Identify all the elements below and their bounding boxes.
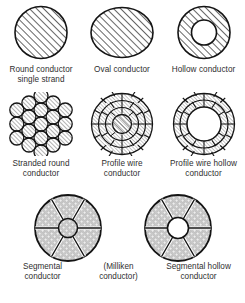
stranded-round-conductor-icon — [8, 92, 74, 156]
diagram-hollow-conductor: Hollow conductor — [162, 4, 245, 75]
row-segmental-conductors — [0, 193, 245, 263]
caption-profile-wire-hollow-conductor: Profile wire hollow conductor — [170, 159, 237, 179]
caption-stranded-round-conductor: Stranded round conductor — [12, 159, 69, 179]
caption-segmental-conductor: Segmental conductor — [2, 262, 84, 282]
row-segmental-captions: Segmental conductor (Milliken conductor)… — [0, 262, 245, 282]
conductor-types-figure: Round conductor single strand Oval condu… — [0, 0, 245, 303]
hollow-conductor-icon — [173, 4, 235, 62]
diagram-segmental-conductor — [18, 193, 118, 263]
caption-hollow-conductor: Hollow conductor — [172, 65, 236, 75]
diagram-profile-wire-hollow-conductor: Profile wire hollow conductor — [162, 92, 245, 179]
row-basic-conductors: Round conductor single strand Oval condu… — [0, 4, 245, 85]
profile-wire-conductor-icon — [88, 92, 156, 156]
oval-conductor-icon — [87, 4, 157, 62]
caption-round-conductor: Round conductor single strand — [9, 65, 72, 85]
diagram-stranded-round-conductor: Stranded round conductor — [0, 92, 82, 179]
caption-profile-wire-conductor: Profile wire conductor — [101, 159, 142, 179]
diagram-round-conductor-single-strand: Round conductor single strand — [0, 4, 82, 85]
diagram-oval-conductor: Oval conductor — [82, 4, 162, 75]
segmental-conductor-icon — [29, 193, 107, 263]
caption-segmental-hollow-conductor: Segmental hollow conductor — [154, 262, 244, 282]
caption-oval-conductor: Oval conductor — [94, 65, 150, 75]
profile-wire-hollow-conductor-icon — [170, 92, 238, 156]
segmental-hollow-conductor-icon — [139, 193, 217, 263]
diagram-profile-wire-conductor: Profile wire conductor — [82, 92, 162, 179]
diagram-segmental-hollow-conductor — [128, 193, 228, 263]
round-conductor-icon — [10, 4, 72, 62]
row-stranded-profile-conductors: Stranded round conductor — [0, 92, 245, 179]
caption-milliken-conductor: (Milliken conductor) — [84, 262, 154, 282]
